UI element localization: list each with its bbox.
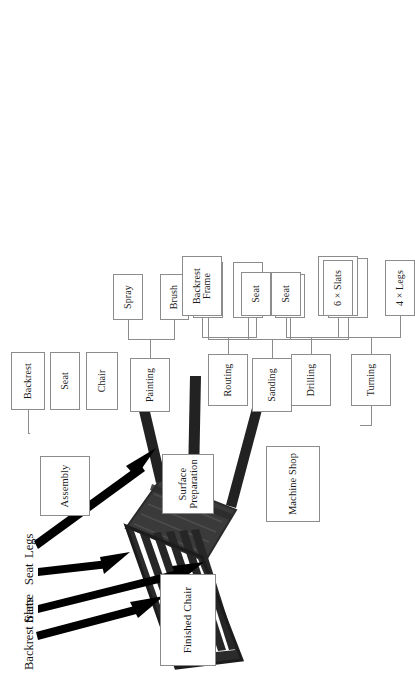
node-routing-backrest-frame[interactable]: Backrest Frame [182, 256, 222, 316]
node-label: Turning [366, 364, 377, 397]
node-label: Sanding [267, 368, 278, 401]
node-surface-preparation[interactable]: Surface Preparation [162, 454, 214, 514]
node-assembly-seat[interactable]: Seat [50, 352, 80, 410]
connector-drilling-stub [311, 338, 312, 354]
node-label: 6 × Slats [333, 270, 344, 306]
connector-turning-slats [338, 316, 339, 338]
connector-painting-fan [128, 339, 174, 340]
callout-label-seat: Seat [22, 563, 37, 585]
connector-drilling-fan [286, 337, 338, 338]
node-label: Seat [60, 372, 71, 390]
node-turning-slats[interactable]: 6 × Slats [323, 260, 353, 316]
connector-routing-stub [228, 338, 229, 354]
node-label: Drilling [306, 364, 317, 396]
node-label: Machine Shop [287, 453, 298, 515]
callout-label-slats: Slats [22, 598, 37, 622]
node-routing[interactable]: Routing [208, 354, 248, 406]
connector-routing-backrest-frame [202, 316, 203, 338]
node-label: Assembly [59, 465, 70, 508]
node-assembly-backrest[interactable]: Backrest [11, 352, 45, 410]
connector-turning-legs [400, 316, 401, 338]
node-label: 4 × Legs [395, 270, 406, 306]
node-label: Painting [145, 368, 156, 402]
node-machine-shop[interactable]: Machine Shop [266, 446, 320, 522]
connector-sanding-stub [272, 340, 273, 358]
connector-assembly-backrest [28, 410, 29, 434]
connector-machine-turning [371, 406, 372, 426]
node-painting-spray[interactable]: Spray [113, 274, 143, 320]
connector-painting-brush [174, 320, 175, 340]
node-label: Seat [281, 285, 292, 303]
node-label: Finished Chair [182, 587, 194, 653]
connector-turning-stub [371, 338, 372, 354]
node-painting[interactable]: Painting [130, 358, 170, 412]
connector-sanding-fan [208, 339, 348, 340]
node-turning[interactable]: Turning [351, 354, 391, 406]
node-assembly-chair[interactable]: Chair [86, 352, 118, 410]
node-finished-chair[interactable]: Finished Chair [160, 574, 216, 666]
node-sanding[interactable]: Sanding [252, 358, 292, 412]
connector-drilling-seat [286, 316, 287, 338]
node-label: Seat [251, 285, 262, 303]
connector-routing-seat [256, 316, 257, 338]
node-label: Backrest [23, 363, 34, 399]
node-label: Backrest Frame [192, 268, 213, 304]
node-turning-legs[interactable]: 4 × Legs [385, 260, 415, 316]
node-label: Spray [123, 285, 134, 309]
connector-painting-spray [128, 320, 129, 340]
node-routing-seat[interactable]: Seat [241, 272, 271, 316]
callout-label-legs: Legs [22, 534, 37, 558]
node-label: Brush [169, 285, 180, 309]
connector-routing-fan [202, 337, 256, 338]
node-assembly[interactable]: Assembly [40, 456, 90, 516]
node-drilling[interactable]: Drilling [291, 354, 331, 406]
connector-painting-stub [150, 340, 151, 358]
node-label: Surface Preparation [177, 459, 199, 509]
node-label: Chair [97, 370, 108, 393]
node-drilling-seat[interactable]: Seat [271, 272, 301, 316]
connector-turning-fan [338, 337, 400, 338]
node-label: Routing [223, 364, 234, 397]
